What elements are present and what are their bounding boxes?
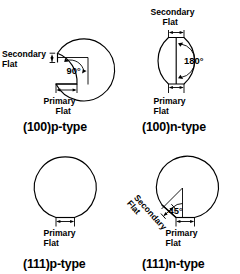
secondary-dim-arrow-left-100n	[169, 31, 173, 34]
panel-caption-100n: (100)n-type	[142, 120, 206, 134]
wafer-diagram-100n: Secondary Flat 180° P	[120, 0, 240, 137]
secondary-dim-arrow-right-100n	[180, 31, 184, 34]
panel-caption-111n: (111)n-type	[142, 257, 205, 271]
primary-flat-label-line2-100n: Flat	[154, 106, 169, 116]
primary-flat-label-line1-111n: Primary	[166, 228, 198, 238]
wafer-diagram-111n: 45° Secondary Flat Primary Flat (111	[120, 137, 240, 274]
angle-label-100n: 180°	[184, 55, 204, 66]
wafer-outline-100p	[56, 39, 115, 101]
secondary-flat-label-line2-100p: Flat	[2, 59, 17, 69]
primary-dim-arrow-right-111p	[70, 220, 74, 223]
panel-caption-100p: (100)p-type	[23, 120, 87, 134]
primary-dim-arrow-right-111n	[190, 220, 194, 223]
primary-dim-arrow-right-100n	[180, 86, 184, 89]
primary-flat-label-line2-111p: Flat	[44, 238, 59, 248]
primary-dim-arrow-right-100p	[73, 88, 77, 91]
primary-flat-label-line2-100p: Flat	[56, 106, 71, 116]
secondary-flat-label-line1-100p: Secondary	[2, 49, 46, 59]
panel-caption-111p: (111)p-type	[23, 257, 86, 271]
primary-flat-label-line2-111n: Flat	[166, 238, 181, 248]
wafer-orientation-figure: 90° Secondary Flat Primary Flat (100)p-t…	[0, 0, 240, 274]
angle-arrow-end-100p	[82, 69, 87, 73]
primary-dim-arrow-left-111p	[56, 220, 60, 223]
primary-dim-arrow-left-100n	[169, 86, 173, 89]
secondary-flat-label-line1-100n: Secondary	[151, 7, 195, 17]
primary-flat-label-line1-111p: Primary	[44, 228, 76, 238]
wafer-panel-111p: Primary Flat (111)p-type	[0, 137, 120, 274]
wafer-outline-111p	[34, 157, 96, 218]
secondary-flat-label-line2-100n: Flat	[163, 17, 178, 27]
wafer-diagram-111p: Primary Flat (111)p-type	[0, 137, 120, 274]
primary-flat-label-line1-100p: Primary	[44, 96, 76, 106]
wafer-panel-111n: 45° Secondary Flat Primary Flat (111	[120, 137, 240, 274]
secondary-dim-arrow-down-100p	[51, 58, 54, 62]
wafer-panel-100p: 90° Secondary Flat Primary Flat (100)p-t…	[0, 0, 120, 137]
wafer-panel-100n: Secondary Flat 180° P	[120, 0, 240, 137]
angle-label-100p: 90°	[67, 65, 81, 76]
primary-dim-arrow-left-111n	[176, 220, 180, 223]
primary-flat-label-line1-100n: Primary	[154, 96, 186, 106]
wafer-diagram-100p: 90° Secondary Flat Primary Flat (100)p-t…	[0, 0, 120, 137]
